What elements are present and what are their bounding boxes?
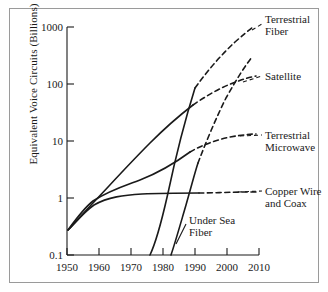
series-label-under-sea-fiber-line1: Under Sea	[189, 214, 235, 226]
series-label-terrestrial-microwave-line2: Microwave	[265, 141, 315, 153]
series-label-terrestrial-fiber-line2: Fiber	[265, 25, 289, 37]
curve-terrestrial-microwave-dashed	[190, 134, 256, 152]
y-axis-ticks	[67, 27, 74, 255]
y-tick-label-1: 1	[58, 192, 64, 204]
curve-terrestrial-fiber-dashed	[195, 27, 253, 88]
y-tick-label-1000: 1000	[41, 21, 64, 33]
y-tick-label-0.1: 0.1	[49, 249, 63, 261]
series-label-satellite: Satellite	[265, 70, 301, 82]
x-tick-label-1980: 1980	[152, 261, 175, 273]
x-tick-label-1970: 1970	[120, 261, 143, 273]
series-label-terrestrial-microwave-line1: Terrestrial	[265, 129, 310, 141]
curve-under-sea-fiber-solid	[171, 163, 198, 255]
leader-copper	[238, 191, 262, 192]
series-text-labels: Terrestrial Fiber Satellite Terrestrial …	[189, 13, 322, 238]
x-tick-label-1990: 1990	[184, 261, 207, 273]
series-label-copper-line2: and Coax	[265, 197, 307, 209]
curve-copper-wire-and-coax-solid	[68, 193, 199, 230]
x-tick-label-1950: 1950	[56, 261, 79, 273]
x-tick-label-2000: 2000	[216, 261, 239, 273]
x-tick-label-2010: 2010	[248, 261, 271, 273]
y-tick-label-10: 10	[52, 135, 64, 147]
series-label-under-sea-fiber-line2: Fiber	[189, 226, 213, 238]
x-axis-ticks	[67, 248, 259, 255]
series-label-terrestrial-fiber-line1: Terrestrial	[265, 13, 310, 25]
y-tick-label-100: 100	[47, 78, 64, 90]
x-tick-labels: 1950 1960 1970 1980 1990 2000 2010	[56, 261, 271, 273]
y-tick-labels: 1000 100 10 1 0.1	[41, 21, 64, 261]
series-label-copper-line1: Copper Wire	[265, 185, 322, 197]
leader-satellite	[243, 76, 262, 82]
chart-figure: Equivalent Voice Circuits (Billions)	[0, 0, 328, 292]
curve-copper-wire-and-coax-dashed	[199, 192, 258, 193]
leader-terrestrial-fiber	[252, 24, 262, 30]
plot-area: 1000 100 10 1 0.1 1950 1960 1970 1980 19…	[0, 0, 328, 292]
x-tick-label-1960: 1960	[88, 261, 111, 273]
